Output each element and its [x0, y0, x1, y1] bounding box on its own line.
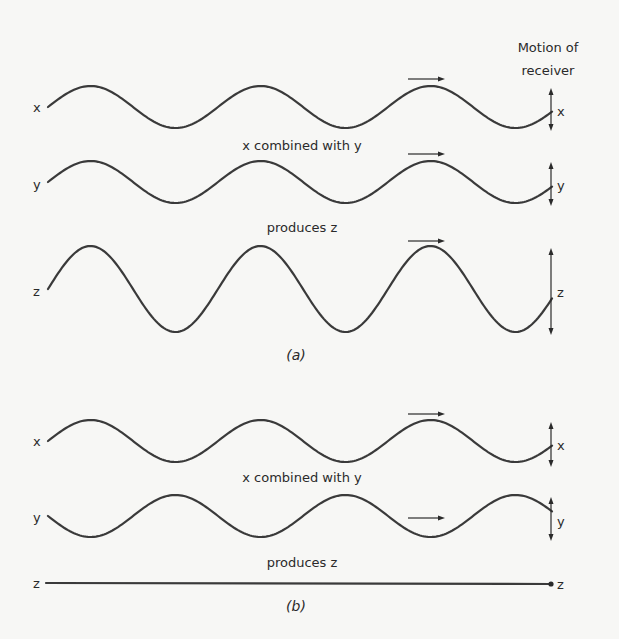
wave-left-label: z	[33, 284, 40, 299]
vertical-motion-arrow-icon	[549, 162, 554, 206]
wave-a-y: y y	[33, 152, 565, 207]
wave-right-label: y	[557, 178, 565, 193]
wave-curve	[48, 495, 552, 537]
wave-right-label: x	[557, 438, 565, 453]
motion-of-receiver-label-line2: receiver	[522, 63, 576, 78]
panel-b: x x x combined with y y y produces z z z…	[33, 412, 565, 615]
wave-right-label: z	[557, 285, 564, 300]
panel-a: x x x combined with y y y produces z z z…	[33, 77, 565, 364]
wave-b-x: x x	[33, 412, 565, 468]
wave-left-label: x	[33, 434, 41, 449]
motion-of-receiver-label-line1: Motion of	[518, 40, 579, 55]
panel-b-caption: (b)	[286, 598, 306, 614]
wave-b-y: y y	[33, 495, 565, 541]
combined-label: x combined with y	[242, 138, 362, 153]
wave-right-label: y	[557, 514, 565, 529]
vertical-motion-arrow-icon	[549, 88, 554, 131]
flat-resultant-line	[46, 583, 551, 584]
produces-label: produces z	[267, 555, 338, 570]
propagation-arrow-icon	[408, 77, 445, 82]
wave-curve	[48, 246, 552, 332]
propagation-arrow-icon	[408, 412, 445, 417]
panel-a-caption: (a)	[286, 347, 306, 363]
vertical-motion-arrow-icon	[549, 248, 554, 335]
produces-label: produces z	[267, 220, 338, 235]
propagation-arrow-icon	[408, 516, 445, 521]
wave-b-z-flat: z z	[33, 576, 564, 592]
propagation-arrow-icon	[408, 152, 445, 157]
wave-left-label: y	[33, 510, 41, 525]
wave-right-label: z	[557, 577, 564, 592]
receiver-dot-icon	[548, 581, 553, 586]
wave-interference-figure: Motion of receiver x x x combined with y…	[0, 0, 619, 639]
wave-a-x: x x	[33, 77, 565, 132]
combined-label: x combined with y	[242, 470, 362, 485]
vertical-motion-arrow-icon	[549, 422, 554, 467]
propagation-arrow-icon	[408, 239, 445, 244]
wave-a-z: z z	[33, 239, 564, 336]
wave-left-label: x	[33, 100, 41, 115]
wave-curve	[48, 161, 552, 203]
wave-right-label: x	[557, 104, 565, 119]
wave-left-label: y	[33, 177, 41, 192]
vertical-motion-arrow-icon	[549, 497, 554, 541]
wave-curve	[48, 420, 552, 462]
wave-curve	[48, 86, 552, 128]
wave-left-label: z	[33, 576, 40, 591]
